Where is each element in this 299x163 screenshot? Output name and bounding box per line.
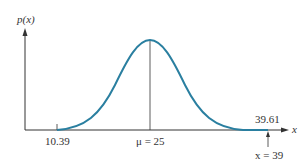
x-axis-arrow-icon xyxy=(281,128,289,133)
y-axis-label: p(x) xyxy=(17,14,35,25)
left-tick-label: 10.39 xyxy=(45,136,70,147)
x-axis-label: x xyxy=(292,124,297,135)
normal-curve xyxy=(57,40,268,130)
y-axis-arrow-icon xyxy=(23,28,28,36)
mean-label: μ = 25 xyxy=(136,136,165,147)
right-tick-label: 39.61 xyxy=(255,114,280,125)
pointer-label: x = 39 xyxy=(255,150,283,161)
pointer-arrow-icon xyxy=(266,131,270,137)
